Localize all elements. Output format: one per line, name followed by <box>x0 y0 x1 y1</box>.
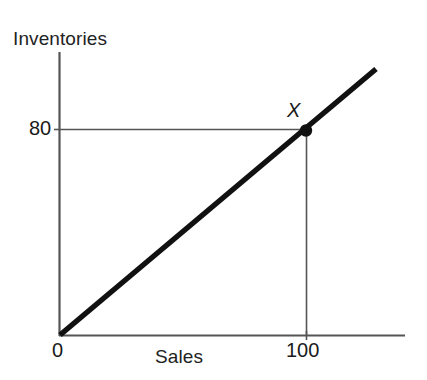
x-tick-label-100: 100 <box>286 339 319 361</box>
x-tick-label-0: 0 <box>52 339 63 361</box>
data-point-marker-x <box>300 124 312 136</box>
x-axis-title: Sales <box>155 347 203 367</box>
y-axis-title: Inventories <box>13 29 107 49</box>
data-line-series-1 <box>60 69 376 335</box>
chart-plot-area <box>0 0 427 380</box>
inventories-vs-sales-chart: Inventories Sales 80 0 100 X <box>0 0 427 380</box>
y-tick-label-80: 80 <box>29 117 51 139</box>
data-point-label-x: X <box>287 100 300 121</box>
